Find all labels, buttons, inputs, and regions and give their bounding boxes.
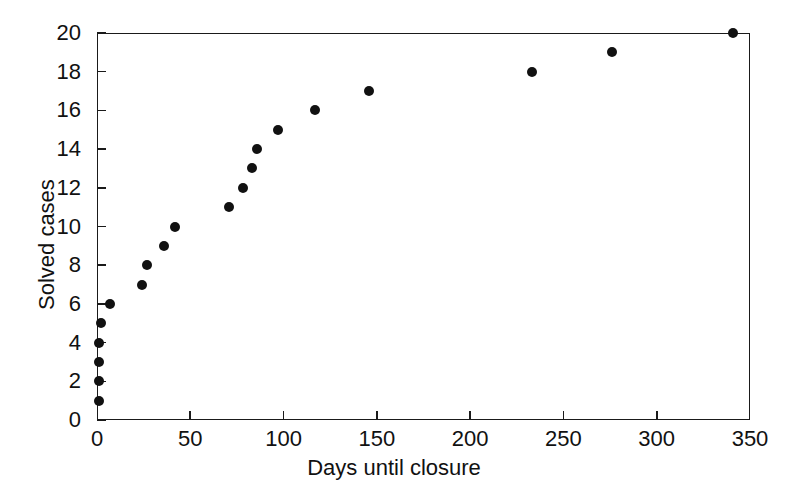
y-tick-label-16: 16 xyxy=(21,99,81,121)
y-tick-label-2: 2 xyxy=(21,370,81,392)
x-tick-label-150: 150 xyxy=(337,428,417,450)
y-axis-title: Solved cases xyxy=(34,179,60,310)
x-tick-50 xyxy=(189,411,191,420)
x-tick-200 xyxy=(469,411,471,420)
y-tick-label-20: 20 xyxy=(21,22,81,44)
x-tick-label-350: 350 xyxy=(710,428,788,450)
x-tick-label-300: 300 xyxy=(617,428,697,450)
y-tick-16 xyxy=(97,110,106,112)
x-tick-300 xyxy=(656,411,658,420)
y-tick-label-4: 4 xyxy=(21,332,81,354)
x-tick-label-50: 50 xyxy=(150,428,230,450)
x-tick-250 xyxy=(563,411,565,420)
y-tick-12 xyxy=(97,187,106,189)
y-tick-label-14: 14 xyxy=(21,138,81,160)
y-tick-20 xyxy=(97,32,106,34)
x-axis-title: Days until closure xyxy=(0,455,788,481)
y-tick-18 xyxy=(97,71,106,73)
x-tick-150 xyxy=(376,411,378,420)
y-tick-4 xyxy=(97,342,106,344)
x-tick-label-200: 200 xyxy=(430,428,510,450)
y-tick-0 xyxy=(97,419,106,421)
x-tick-label-100: 100 xyxy=(244,428,324,450)
scatter-chart-figure: 02468101214161820 050100150200250300350 … xyxy=(0,0,788,492)
y-tick-14 xyxy=(97,148,106,150)
y-tick-8 xyxy=(97,264,106,266)
plot-frame xyxy=(97,33,750,420)
y-tick-2 xyxy=(97,381,106,383)
y-tick-6 xyxy=(97,303,106,305)
x-tick-label-0: 0 xyxy=(57,428,137,450)
y-tick-10 xyxy=(97,226,106,228)
y-tick-label-18: 18 xyxy=(21,61,81,83)
x-tick-100 xyxy=(283,411,285,420)
x-tick-label-250: 250 xyxy=(523,428,603,450)
